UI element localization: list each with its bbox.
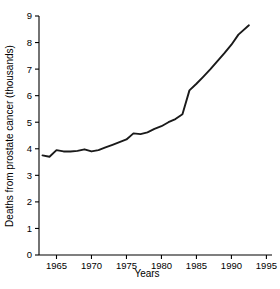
y-tick-label: 8 xyxy=(27,37,32,48)
y-tick-label: 4 xyxy=(27,143,32,154)
y-tick-label: 0 xyxy=(27,249,32,260)
y-tick-label: 6 xyxy=(27,90,32,101)
y-tick-label: 5 xyxy=(27,117,32,128)
x-axis-title: Years xyxy=(134,268,159,279)
x-tick-label: 1985 xyxy=(186,260,207,271)
x-tick-label: 1995 xyxy=(256,260,277,271)
x-tick-label: 1965 xyxy=(46,260,67,271)
y-tick-label: 7 xyxy=(27,64,32,75)
data-series-line xyxy=(43,25,249,156)
y-tick-label: 1 xyxy=(27,223,32,234)
y-tick-label: 3 xyxy=(27,170,32,181)
x-tick-label: 1990 xyxy=(221,260,242,271)
y-tick-label: 9 xyxy=(27,10,32,21)
y-axis-title: Deaths from prostate cancer (thousands) xyxy=(4,45,15,227)
data-series-group xyxy=(43,25,249,156)
y-axis-ticks: 0123456789 xyxy=(27,10,39,260)
chart-figure: 0123456789 1965197019751980198519901995 … xyxy=(0,0,280,289)
x-tick-label: 1970 xyxy=(81,260,102,271)
x-axis-ticks: 1965197019751980198519901995 xyxy=(46,255,277,271)
y-tick-label: 2 xyxy=(27,196,32,207)
chart-plot-area: 0123456789 1965197019751980198519901995 … xyxy=(0,0,280,289)
